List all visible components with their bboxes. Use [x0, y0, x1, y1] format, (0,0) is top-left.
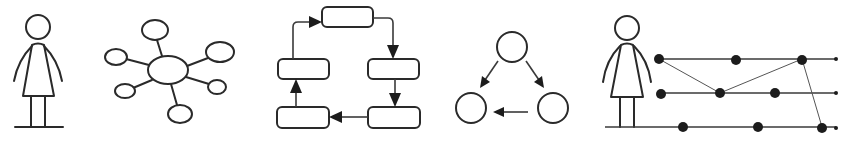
satellite-node — [105, 49, 127, 65]
timeline-end-dot — [834, 57, 838, 61]
cycle-box-left — [278, 59, 329, 79]
cycle-box-top — [322, 7, 373, 27]
satellite-node — [168, 105, 192, 123]
timeline-end-dot — [834, 91, 838, 95]
hub-network — [105, 20, 234, 123]
cycle-diagram — [277, 7, 420, 128]
satellite-node — [142, 20, 168, 40]
flow-node-bottom-right — [538, 93, 568, 123]
hub-link — [187, 58, 208, 66]
timelines — [605, 54, 838, 133]
arrowhead-icon — [329, 111, 342, 123]
event-dot — [731, 55, 741, 65]
hub-link — [171, 84, 177, 105]
arrowhead-icon — [290, 79, 302, 93]
hub-link — [126, 59, 149, 65]
cycle-box-bottom-left — [277, 107, 329, 128]
cycle-connector — [373, 18, 393, 48]
flow-arrow-line — [526, 61, 539, 80]
person-figure-2 — [603, 16, 651, 127]
arrowhead-icon — [309, 16, 322, 28]
hub-link — [186, 77, 209, 84]
hub-center-node — [148, 56, 188, 84]
event-dot — [770, 88, 780, 98]
event-dot — [715, 88, 725, 98]
event-dot — [753, 122, 763, 132]
person-head — [615, 16, 639, 40]
flow-arrow-line — [485, 61, 498, 80]
arrowhead-icon — [493, 107, 504, 117]
hub-link — [133, 80, 152, 88]
diagram-strip — [0, 0, 855, 156]
triangle-flow-diagram — [456, 32, 568, 123]
cycle-box-right — [368, 59, 419, 79]
timeline-end-dot — [834, 126, 838, 130]
flow-node-top — [497, 32, 527, 62]
event-dot — [678, 122, 688, 132]
flow-node-bottom-left — [456, 93, 486, 123]
person-figure-1 — [14, 15, 63, 127]
event-dot — [817, 123, 827, 133]
arrowhead-icon — [387, 45, 399, 59]
arrowhead-icon — [534, 76, 544, 88]
event-dot — [656, 89, 666, 99]
satellite-node — [208, 80, 226, 94]
person-head — [26, 15, 50, 39]
cycle-box-bottom-right — [368, 107, 420, 128]
hub-link — [157, 40, 162, 56]
satellite-node — [115, 84, 135, 98]
satellite-node — [206, 42, 234, 62]
event-dot — [797, 55, 807, 65]
arrowhead-icon — [480, 76, 490, 88]
event-dot — [654, 54, 664, 64]
arrowhead-icon — [389, 93, 401, 107]
